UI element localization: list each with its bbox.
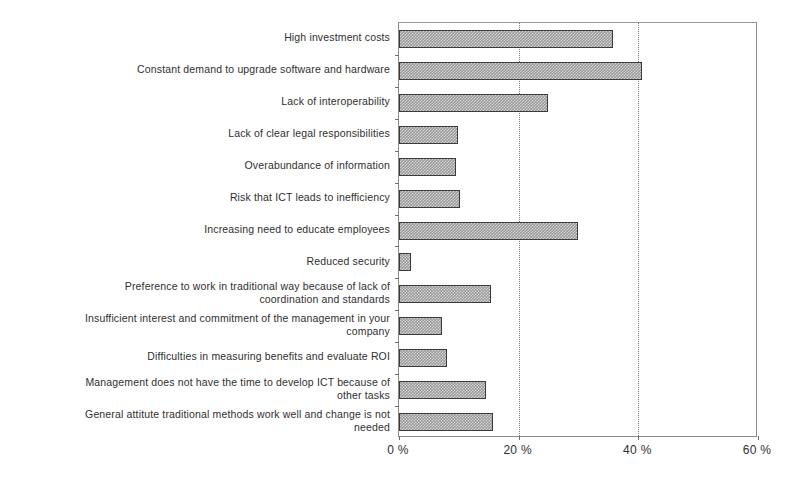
- category-label: General attitute traditional methods wor…: [0, 408, 390, 435]
- y-axis-tick: [395, 406, 399, 407]
- x-axis-tick: [758, 436, 759, 440]
- bar: [399, 222, 578, 240]
- y-axis-tick: [395, 278, 399, 279]
- category-label: Lack of interoperability: [0, 95, 390, 109]
- bar: [399, 253, 411, 271]
- y-axis-tick: [395, 374, 399, 375]
- category-label: Risk that ICT leads to inefficiency: [0, 191, 390, 205]
- category-label: Difficulties in measuring benefits and e…: [0, 350, 390, 364]
- category-label: High investment costs: [0, 31, 390, 45]
- bar: [399, 30, 613, 48]
- y-axis-tick: [395, 55, 399, 56]
- bar: [399, 190, 460, 208]
- bar: [399, 413, 493, 431]
- x-axis-tick-label: 40 %: [623, 443, 652, 457]
- category-label: Increasing need to educate employees: [0, 223, 390, 237]
- y-axis-tick: [395, 215, 399, 216]
- category-label: Insufficient interest and commitment of …: [0, 312, 390, 339]
- y-axis-tick: [395, 119, 399, 120]
- bar: [399, 349, 447, 367]
- category-label: Lack of clear legal responsibilities: [0, 127, 390, 141]
- y-axis-tick: [395, 183, 399, 184]
- x-axis-tick-label: 60 %: [743, 443, 772, 457]
- y-axis-tick: [395, 246, 399, 247]
- y-axis-tick: [395, 342, 399, 343]
- x-axis-tick: [399, 436, 400, 440]
- plot-area: [398, 22, 757, 437]
- bar: [399, 285, 491, 303]
- category-label: Constant demand to upgrade software and …: [0, 63, 390, 77]
- horizontal-bar-chart: High investment costsConstant demand to …: [0, 0, 806, 486]
- x-axis-tick-labels: 0 %20 %40 %60 %: [398, 443, 798, 465]
- bar: [399, 381, 486, 399]
- bar: [399, 158, 456, 176]
- x-axis-tick-label: 20 %: [503, 443, 532, 457]
- y-axis-tick: [395, 87, 399, 88]
- x-axis-tick: [638, 436, 639, 440]
- y-axis-tick: [395, 151, 399, 152]
- category-label: Management does not have the time to dev…: [0, 376, 390, 403]
- bar: [399, 94, 548, 112]
- x-axis-tick: [519, 436, 520, 440]
- x-axis-tick-label: 0 %: [387, 443, 409, 457]
- gridline-40: [638, 23, 639, 436]
- bar: [399, 62, 642, 80]
- y-axis-tick: [395, 310, 399, 311]
- category-label: Reduced security: [0, 255, 390, 269]
- category-label: Overabundance of information: [0, 159, 390, 173]
- bar: [399, 126, 458, 144]
- bar: [399, 317, 442, 335]
- category-labels-axis: High investment costsConstant demand to …: [0, 22, 396, 437]
- category-label: Preference to work in traditional way be…: [0, 280, 390, 307]
